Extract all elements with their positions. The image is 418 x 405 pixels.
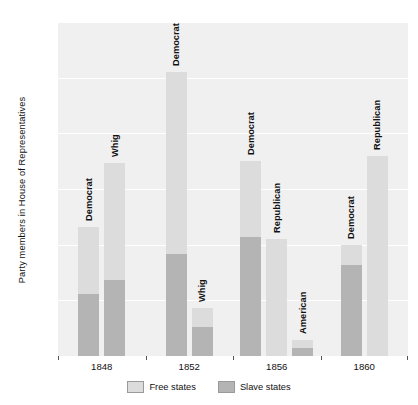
bar-segment-free-states bbox=[367, 156, 388, 356]
bar-segment-free-states bbox=[78, 227, 99, 294]
legend-label: Slave states bbox=[240, 382, 291, 392]
gridline bbox=[58, 78, 408, 79]
bar-1856-democrat: Democrat bbox=[240, 161, 261, 356]
bar-segment-slave-states bbox=[240, 237, 261, 356]
legend-item-free-states[interactable]: Free states bbox=[127, 381, 196, 393]
bar-label: Whig bbox=[110, 135, 120, 158]
bar-segment-slave-states bbox=[341, 265, 362, 356]
bar-segment-free-states bbox=[266, 239, 287, 356]
bar-label: American bbox=[298, 292, 308, 334]
bar-segment-free-states bbox=[104, 163, 125, 280]
bar-segment-free-states bbox=[192, 308, 213, 327]
bar-segment-free-states bbox=[341, 245, 362, 265]
gridline bbox=[58, 22, 408, 23]
x-tick-mark bbox=[407, 356, 408, 360]
bar-segment-slave-states bbox=[78, 294, 99, 356]
x-tick-mark bbox=[233, 356, 234, 360]
bar-1856-american: American bbox=[292, 340, 313, 356]
bar-segment-free-states bbox=[166, 72, 187, 253]
x-tick-label: 1860 bbox=[354, 361, 375, 372]
bar-segment-slave-states bbox=[292, 348, 313, 356]
bar-chart: Party members in House of Representative… bbox=[0, 0, 418, 405]
x-tick-mark bbox=[58, 356, 59, 360]
legend-swatch bbox=[127, 381, 144, 393]
y-axis-title: Party members in House of Representative… bbox=[17, 40, 27, 340]
bar-1860-republican: Republican bbox=[367, 156, 388, 356]
legend-swatch bbox=[218, 381, 235, 393]
x-tick-label: 1852 bbox=[179, 361, 200, 372]
bar-label: Democrat bbox=[84, 178, 94, 221]
bar-segment-slave-states bbox=[166, 254, 187, 356]
bar-1848-democrat: Democrat bbox=[78, 227, 99, 356]
x-tick-mark bbox=[321, 356, 322, 360]
bar-label: Whig bbox=[197, 279, 207, 302]
bar-segment-slave-states bbox=[104, 280, 125, 356]
bar-segment-free-states bbox=[292, 340, 313, 348]
bar-label: Republican bbox=[272, 183, 282, 233]
bar-label: Democrat bbox=[171, 23, 181, 66]
chart-legend: Free statesSlave states bbox=[0, 381, 418, 393]
bar-label: Democrat bbox=[246, 112, 256, 155]
bar-segment-free-states bbox=[240, 161, 261, 237]
plot-area: DemocratWhigDemocratWhigDemocratRepublic… bbox=[58, 22, 408, 356]
bar-label: Democrat bbox=[346, 196, 356, 239]
bar-1860-democrat: Democrat bbox=[341, 245, 362, 356]
legend-label: Free states bbox=[149, 382, 196, 392]
legend-item-slave-states[interactable]: Slave states bbox=[218, 381, 291, 393]
x-axis: 1848185218561860 bbox=[58, 356, 408, 376]
x-tick-label: 1848 bbox=[91, 361, 112, 372]
bar-1848-whig: Whig bbox=[104, 163, 125, 356]
bar-segment-slave-states bbox=[192, 327, 213, 356]
x-tick-mark bbox=[146, 356, 147, 360]
bar-1856-republican: Republican bbox=[266, 239, 287, 356]
bar-1852-democrat: Democrat bbox=[166, 72, 187, 356]
bar-1852-whig: Whig bbox=[192, 308, 213, 356]
bar-label: Republican bbox=[372, 100, 382, 150]
x-tick-label: 1856 bbox=[266, 361, 287, 372]
